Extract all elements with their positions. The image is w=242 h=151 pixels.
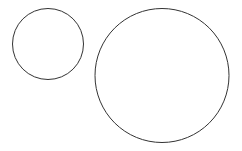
small-circle (13, 9, 84, 80)
large-circle (95, 9, 229, 143)
diagram-canvas (0, 0, 242, 151)
